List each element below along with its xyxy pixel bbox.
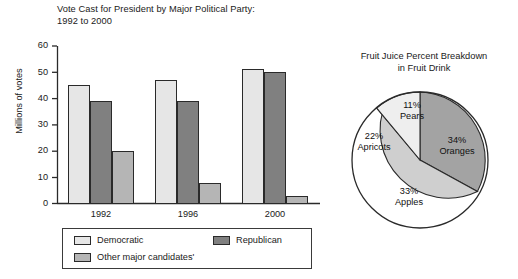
bar-1992-republican	[90, 101, 112, 204]
y-tick-20: 20	[26, 146, 48, 155]
y-tick-0: 0	[26, 199, 48, 208]
bar-chart-legend: Democratic Republican Other major candid…	[62, 228, 312, 269]
bar-2000-democratic	[242, 69, 264, 203]
legend-item-democratic[interactable]: Democratic	[74, 236, 143, 245]
bar-1992-democratic	[68, 85, 90, 203]
legend-swatch-democratic-icon	[74, 236, 91, 245]
legend-label-republican: Republican	[236, 236, 282, 245]
legend-item-other[interactable]: Other major candidates'	[74, 253, 194, 262]
x-tick-1996: 1996	[160, 210, 216, 219]
y-tick-40: 40	[26, 94, 48, 103]
legend-label-other: Other major candidates'	[97, 253, 194, 262]
pie-label-oranges: 34% Oranges	[426, 135, 488, 158]
pie-label-apples: 33% Apples	[378, 186, 440, 209]
legend-swatch-republican-icon	[213, 236, 230, 245]
bar-1996-other	[199, 183, 221, 204]
bar-2000-republican	[264, 72, 286, 204]
legend-label-democratic: Democratic	[97, 236, 143, 245]
legend-item-republican[interactable]: Republican	[213, 236, 282, 245]
legend-swatch-other-icon	[74, 253, 91, 262]
pie-label-pears: 11% Pears	[386, 100, 438, 123]
pie-chart-title: Fruit Juice Percent Breakdown in Fruit D…	[330, 50, 518, 74]
y-tick-30: 30	[26, 120, 48, 129]
y-tick-10: 10	[26, 173, 48, 182]
x-tick-1992: 1992	[73, 210, 129, 219]
y-tick-60: 60	[26, 41, 48, 50]
bar-1992-other	[112, 151, 134, 204]
x-tick-2000: 2000	[247, 210, 303, 219]
bar-1996-republican	[177, 101, 199, 204]
bar-1996-democratic	[155, 80, 177, 204]
bar-2000-other	[286, 196, 308, 204]
pie-label-apricots: 22% Apricots	[343, 131, 405, 154]
y-tick-50: 50	[26, 68, 48, 77]
bar-chart-panel: Vote Cast for President by Major Politic…	[0, 0, 330, 279]
pie-chart-panel: Fruit Juice Percent Breakdown in Fruit D…	[330, 0, 518, 279]
